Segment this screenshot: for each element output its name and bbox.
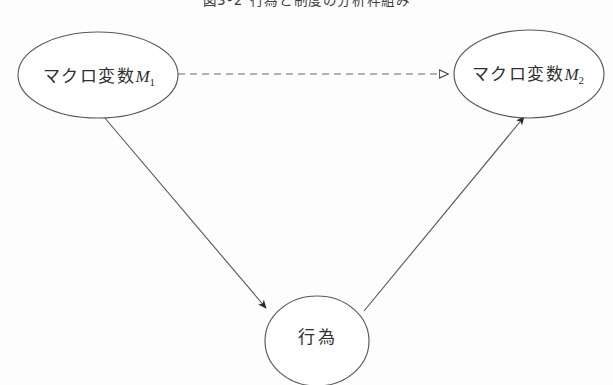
edge-macro1-to-behavior [104, 117, 266, 308]
diagram-canvas [0, 0, 613, 385]
figure-container: 図3-2 行為と制度の分析枠組み マクロ変数M1 マクロ変数M2 [0, 0, 613, 385]
node-macro-variable-2[interactable] [454, 30, 604, 118]
edge-behavior-to-macro2 [364, 117, 524, 311]
node-behavior[interactable] [265, 296, 369, 385]
node-macro-variable-1[interactable] [18, 32, 178, 118]
